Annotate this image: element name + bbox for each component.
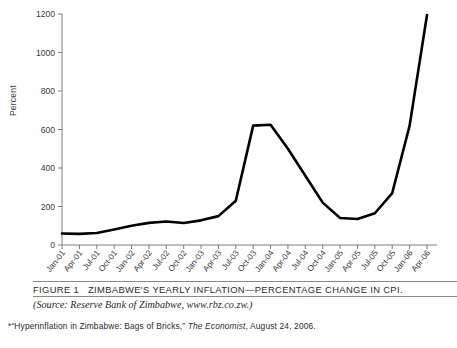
figure-container: 020040060080010001200Jan-01Apr-01Jul-01O… [0, 0, 457, 348]
source-body: Reserve Bank of Zimbabwe, [70, 299, 184, 310]
chart-region: 020040060080010001200Jan-01Apr-01Jul-01O… [0, 0, 457, 276]
y-axis-title: Percent [8, 56, 18, 116]
y-axis-ticks: 020040060080010001200 [36, 9, 62, 250]
svg-text:Apr-02: Apr-02 [132, 248, 154, 273]
svg-text:200: 200 [41, 202, 56, 212]
footnote-quote: “Hyperinflation in Zimbabwe: Bags of Bri… [11, 321, 185, 331]
svg-text:1000: 1000 [36, 48, 55, 58]
figure-number: FIGURE 1 [33, 284, 79, 295]
svg-text:Apr-06: Apr-06 [410, 248, 432, 273]
svg-text:600: 600 [41, 125, 56, 135]
footnote-date: , August 24, 2006. [246, 321, 316, 331]
figure-title-text: ZIMBABWE'S YEARLY INFLATION—PERCENTAGE C… [88, 284, 403, 295]
svg-text:Apr-05: Apr-05 [340, 248, 362, 273]
source-prefix: (Source: [33, 299, 68, 310]
svg-text:1200: 1200 [36, 9, 55, 19]
footnote-publication: The Economist [188, 321, 246, 331]
svg-text:0: 0 [50, 240, 55, 250]
caption-rule-top [33, 281, 457, 282]
figure-source: (Source: Reserve Bank of Zimbabwe, www.r… [33, 299, 453, 310]
caption-block: FIGURE 1ZIMBABWE'S YEARLY INFLATION—PERC… [0, 276, 457, 348]
svg-text:Apr-03: Apr-03 [201, 248, 223, 273]
inflation-data-line [62, 15, 427, 234]
chart-axes [62, 14, 437, 245]
caption-rule-bottom [33, 296, 457, 297]
svg-text:Apr-01: Apr-01 [62, 248, 84, 273]
inflation-line-chart: 020040060080010001200Jan-01Apr-01Jul-01O… [0, 0, 457, 276]
source-url[interactable]: www.rbz.co.zw.) [187, 299, 253, 310]
svg-text:400: 400 [41, 163, 56, 173]
figure-caption: FIGURE 1ZIMBABWE'S YEARLY INFLATION—PERC… [33, 284, 453, 295]
x-axis-ticks: Jan-01Apr-01Jul-01Oct-01Jan-02Apr-02Jul-… [45, 245, 433, 274]
svg-text:800: 800 [41, 86, 56, 96]
svg-text:Apr-04: Apr-04 [271, 248, 293, 273]
figure-footnote: *“Hyperinflation in Zimbabwe: Bags of Br… [8, 321, 453, 331]
